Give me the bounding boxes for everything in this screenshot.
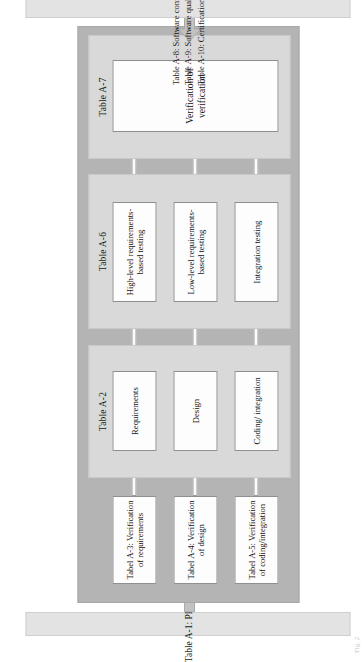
side-box-support-processes-lines: Table A-8: Software configuration manage… xyxy=(169,0,206,85)
process-container: Tabel A-3: Verification of requirements … xyxy=(77,26,299,603)
box-verification-coding-integration: Tabel A-5: Verification of coding/integr… xyxy=(234,496,278,584)
box-label: Tabel A-3: Verification of requirements xyxy=(124,499,144,581)
box-label: Coding/ integration xyxy=(251,377,261,444)
panel-title-a7: Table A-7 xyxy=(97,36,107,158)
box-label: Requirements xyxy=(129,387,139,435)
panel-title-a2: Table A-2 xyxy=(97,346,107,477)
side-line-a10: Table A-10: Certification liaison xyxy=(194,0,206,85)
side-line-a8: Table A-8: Software configuration manage… xyxy=(169,0,181,85)
box-requirements: Requirements xyxy=(112,371,156,451)
box-integration-testing: Integration testing xyxy=(234,202,278,302)
box-label: High-level requirements- based testing xyxy=(124,205,144,299)
panel-title-a6: Table A-6 xyxy=(97,175,107,328)
box-label: Tabel A-5: Verification of coding/integr… xyxy=(246,499,266,581)
side-line-a9: Table A-9: Software quality assurance xyxy=(181,0,193,85)
box-label: Tabel A-4: Verification of design xyxy=(185,499,205,581)
box-coding-integration: Coding/ integration xyxy=(234,371,278,451)
box-low-level-requirements-based-testing: Low-level requirements- based testing xyxy=(173,202,217,302)
box-high-level-requirements-based-testing: High-level requirements- based testing xyxy=(112,202,156,302)
box-label: Design xyxy=(190,399,200,423)
figure-caption: Fig. 2 xyxy=(353,637,361,653)
side-box-planning: Table A-1: Planning xyxy=(25,612,350,636)
side-box-support-processes: Table A-8: Software configuration manage… xyxy=(25,0,350,18)
box-verification-requirements: Tabel A-3: Verification of requirements xyxy=(112,496,156,584)
box-verification-design: Tabel A-4: Verification of design xyxy=(173,496,217,584)
box-label: Integration testing xyxy=(251,221,261,284)
box-label: Low-level requirements- based testing xyxy=(185,205,205,299)
box-design: Design xyxy=(173,371,217,451)
